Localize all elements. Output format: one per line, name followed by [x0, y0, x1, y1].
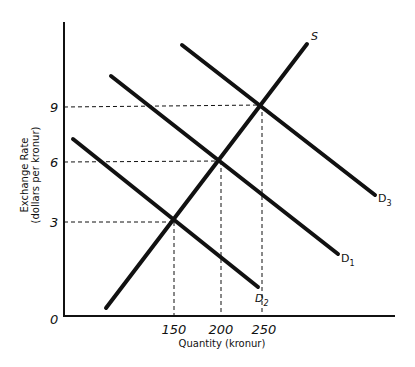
- exchange-rate-chart: S D3 D1 D2 9 6 3 0 150 200 250 Quantity …: [0, 0, 415, 367]
- label-s: S: [311, 30, 318, 43]
- guide-h-9: [64, 105, 262, 107]
- x-tick-150: 150: [162, 322, 187, 337]
- label-d2: D2: [255, 292, 269, 308]
- demand-curve-d1: [111, 76, 338, 254]
- y-axis-title-line1: Exchange Rate: [19, 138, 30, 213]
- y-axis-title-line2: (dollars per kronur): [30, 126, 41, 223]
- x-axis-title: Quantity (kronur): [179, 338, 266, 349]
- guide-h-6: [64, 161, 220, 162]
- label-d3: D3: [378, 192, 392, 208]
- y-tick-9: 9: [50, 100, 58, 115]
- x-tick-250: 250: [252, 322, 277, 337]
- y-tick-3: 3: [50, 215, 58, 230]
- y-tick-0: 0: [50, 312, 58, 327]
- x-tick-200: 200: [209, 322, 234, 337]
- supply-curve-s: [106, 44, 307, 308]
- y-tick-6: 6: [50, 155, 58, 170]
- label-d1: D1: [341, 252, 355, 268]
